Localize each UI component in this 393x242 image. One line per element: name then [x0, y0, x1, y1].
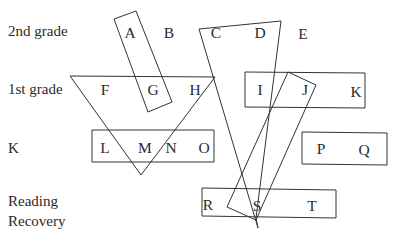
letter-r: R — [203, 196, 213, 214]
letter-n: N — [165, 139, 176, 157]
letter-o: O — [198, 139, 209, 157]
letter-s: S — [253, 197, 262, 215]
letter-b: B — [164, 24, 174, 42]
letter-j: J — [302, 81, 308, 99]
letter-e: E — [298, 25, 307, 43]
letter-m: M — [138, 139, 152, 157]
letter-a: A — [124, 24, 135, 42]
letter-i: I — [257, 81, 262, 99]
letter-g: G — [147, 81, 158, 99]
letter-h: H — [189, 81, 200, 99]
letter-l: L — [100, 139, 109, 157]
box-l-o — [92, 130, 214, 162]
letter-d: D — [254, 24, 265, 42]
grouping-shapes — [0, 0, 393, 242]
box-p-q — [302, 132, 387, 165]
letter-p: P — [317, 140, 326, 158]
letter-q: Q — [358, 141, 369, 159]
letter-k: K — [350, 83, 361, 101]
letter-c: C — [211, 24, 221, 42]
letter-f: F — [101, 81, 110, 99]
letter-t: T — [307, 197, 316, 215]
